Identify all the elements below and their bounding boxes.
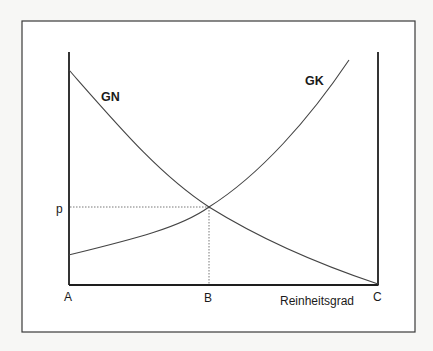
right-end-label-c: C bbox=[373, 290, 382, 304]
gk-label: GK bbox=[305, 74, 324, 88]
origin-label-a: A bbox=[64, 290, 72, 304]
gn-label: GN bbox=[101, 90, 120, 104]
y-intersection-label-p: p bbox=[56, 202, 63, 216]
intersection-x-label-b: B bbox=[204, 291, 212, 305]
diagram-canvas: GN GK p A B C Reinheitsgrad bbox=[0, 0, 433, 351]
x-axis-title: Reinheitsgrad bbox=[280, 294, 354, 308]
